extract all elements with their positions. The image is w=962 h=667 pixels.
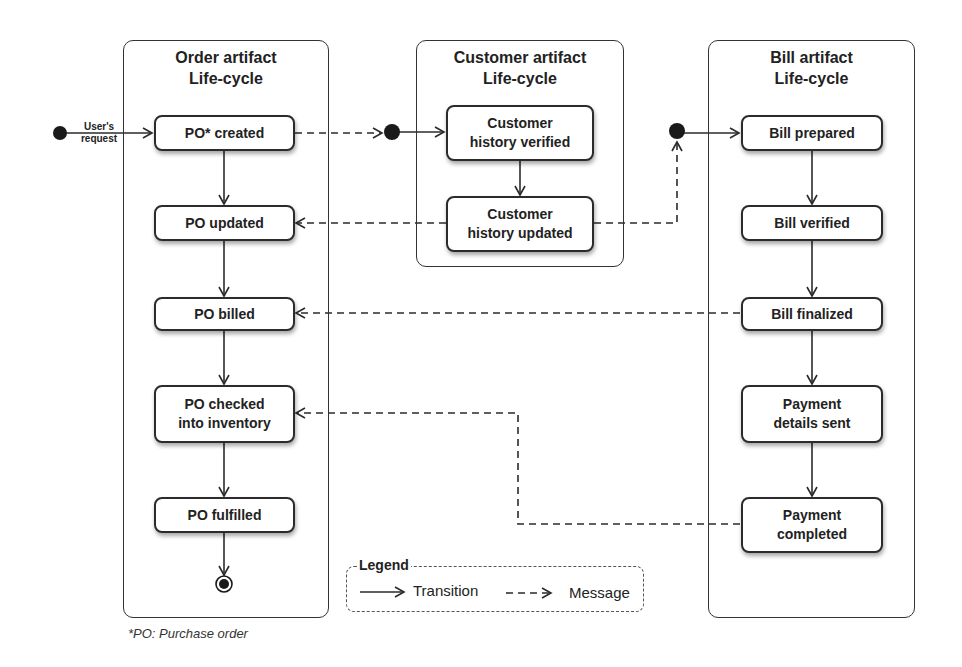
- state-label-line1: Customer: [487, 205, 552, 224]
- state-label-line2: history updated: [467, 224, 572, 243]
- state-label-line2: history verified: [470, 133, 570, 152]
- footnote: *PO: Purchase order: [128, 626, 248, 641]
- initial-node-bill: [669, 123, 685, 139]
- state-label: Bill prepared: [769, 124, 855, 143]
- state-bill-verified: Bill verified: [741, 205, 883, 241]
- state-label-line2: completed: [777, 525, 847, 544]
- state-po-billed: PO billed: [154, 297, 295, 331]
- bill-title-line1: Bill artifact: [709, 47, 914, 68]
- state-label: Bill finalized: [771, 305, 853, 324]
- state-label: PO* created: [185, 124, 264, 143]
- state-bill-finalized: Bill finalized: [741, 297, 883, 331]
- legend-transition-label: Transition: [413, 582, 478, 599]
- state-label-line1: Customer: [487, 114, 552, 133]
- bill-lane-title: Bill artifact Life-cycle: [709, 47, 914, 89]
- order-title-line2: Life-cycle: [124, 68, 328, 89]
- state-label-line1: Payment: [783, 506, 841, 525]
- customer-lane-title: Customer artifact Life-cycle: [417, 47, 623, 89]
- user-request-label: User's request: [76, 121, 122, 145]
- initial-node-order: [53, 126, 67, 140]
- state-payment-completed: Payment completed: [741, 497, 883, 553]
- legend: Legend Transition Message: [346, 566, 644, 612]
- state-label-line1: PO checked: [184, 395, 264, 414]
- state-label-line1: Payment: [783, 395, 841, 414]
- state-bill-prepared: Bill prepared: [741, 115, 883, 151]
- state-po-fulfilled: PO fulfilled: [154, 497, 295, 533]
- state-label: PO billed: [194, 305, 255, 324]
- state-label: Bill verified: [774, 214, 849, 233]
- state-customer-history-verified: Customer history verified: [446, 105, 594, 161]
- customer-title-line1: Customer artifact: [417, 47, 623, 68]
- order-title-line1: Order artifact: [124, 47, 328, 68]
- legend-title: Legend: [359, 557, 411, 573]
- bill-title-line2: Life-cycle: [709, 68, 914, 89]
- state-label: PO fulfilled: [188, 506, 262, 525]
- customer-title-line2: Life-cycle: [417, 68, 623, 89]
- message-payment-to-po-checked: [296, 413, 740, 524]
- state-po-created: PO* created: [154, 115, 295, 151]
- user-request-line2: request: [76, 133, 122, 145]
- state-payment-details-sent: Payment details sent: [741, 385, 883, 443]
- state-po-updated: PO updated: [154, 205, 295, 241]
- user-request-line1: User's: [76, 121, 122, 133]
- order-lane-title: Order artifact Life-cycle: [124, 47, 328, 89]
- state-label-line2: into inventory: [178, 414, 271, 433]
- state-label-line2: details sent: [773, 414, 850, 433]
- legend-message-label: Message: [569, 584, 630, 601]
- initial-node-customer: [384, 124, 400, 140]
- state-customer-history-updated: Customer history updated: [446, 196, 594, 252]
- state-label: PO updated: [185, 214, 264, 233]
- state-po-checked-into-inventory: PO checked into inventory: [154, 385, 295, 443]
